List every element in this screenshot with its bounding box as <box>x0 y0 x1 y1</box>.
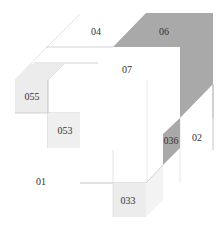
label-06: 06 <box>159 27 169 37</box>
label-036: 036 <box>164 136 179 146</box>
label-01: 01 <box>36 177 46 187</box>
label-033: 033 <box>121 196 136 206</box>
label-055: 055 <box>25 92 40 102</box>
label-04: 04 <box>91 27 101 37</box>
region-033-side-face <box>146 165 163 217</box>
region-04-diagonal <box>46 14 80 48</box>
label-07: 07 <box>122 65 132 75</box>
region-diagram <box>0 0 224 228</box>
label-053: 053 <box>58 126 73 136</box>
label-02: 02 <box>192 133 202 143</box>
